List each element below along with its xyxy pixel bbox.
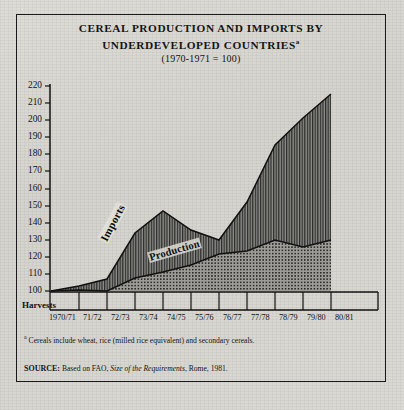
x-tick-label: 79/80	[307, 313, 326, 322]
y-tick-label: 110	[16, 268, 42, 278]
x-tick-label: 78/79	[279, 313, 298, 322]
x-tick-label: 74/75	[167, 313, 186, 322]
y-tick-label: 180	[16, 148, 42, 158]
source-text-2: , Rome, 1981.	[185, 364, 228, 373]
source-text-1: Based on FAO,	[62, 364, 108, 373]
y-tick-label: 200	[16, 114, 42, 124]
y-tick-label: 150	[16, 200, 42, 210]
x-tick-label: 75/76	[195, 313, 214, 322]
x-tick-label: 76/77	[223, 313, 242, 322]
x-tick-label: 1970/71	[49, 313, 76, 322]
x-tick-label: 77/78	[251, 313, 270, 322]
chart-canvas	[0, 0, 404, 410]
figure-footnote: a Cereals include wheat, rice (milled ri…	[24, 332, 374, 346]
y-tick-label: 160	[16, 183, 42, 193]
y-tick-label: 210	[16, 97, 42, 107]
source-title: Size of the Requirements	[110, 364, 185, 373]
x-tick-label: 72/73	[111, 313, 130, 322]
y-tick-label: 140	[16, 217, 42, 227]
source-prefix: SOURCE:	[24, 364, 60, 373]
x-tick-label: 73/74	[139, 313, 158, 322]
y-tick-label: 190	[16, 131, 42, 141]
y-tick-label: 120	[16, 251, 42, 261]
y-tick-label: 100	[16, 285, 42, 295]
y-tick-label: 170	[16, 165, 42, 175]
footnote-text: Cereals include wheat, rice (milled rice…	[29, 336, 255, 345]
y-tick-label: 130	[16, 234, 42, 244]
figure-source: SOURCE: Based on FAO, Size of the Requir…	[24, 364, 374, 373]
x-axis-title: Harvests	[22, 300, 56, 310]
y-tick-label: 220	[16, 80, 42, 90]
x-tick-marks	[79, 292, 331, 310]
x-tick-label: 71/72	[83, 313, 102, 322]
footnote-marker: a	[24, 334, 27, 340]
x-tick-label: 80/81	[335, 313, 354, 322]
